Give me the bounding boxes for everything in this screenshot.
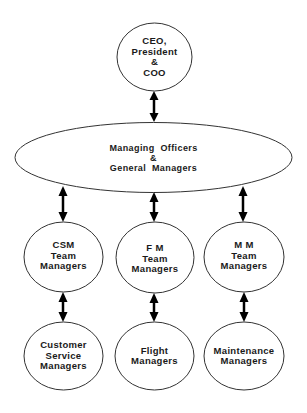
- ceo-label-line-3: &: [151, 57, 158, 68]
- ceo-node-label: CEO, President & COO: [117, 23, 192, 91]
- csm-team-node-label: CSM Team Managers: [24, 222, 103, 290]
- flight-label-line-2: Managers: [131, 356, 178, 367]
- flight-node-label: Flight Managers: [115, 322, 194, 390]
- arrow-mm-team-maintenance: [240, 292, 249, 322]
- fm-team-node-label: F M Team Managers: [116, 224, 194, 294]
- ceo-label-line-1: CEO,: [142, 36, 166, 47]
- arrow-fm-team-flight: [150, 293, 159, 322]
- fm-team-label-line-3: Managers: [132, 264, 179, 275]
- customer-service-label-line-3: Managers: [40, 361, 87, 372]
- customer-service-node-label: Customer Service Managers: [24, 322, 103, 390]
- csm-team-label-line-3: Managers: [40, 261, 87, 272]
- mm-team-label-line-3: Managers: [221, 261, 268, 272]
- arrow-csm-team-customer-service: [59, 292, 68, 322]
- managing-officers-node-label: Managing Officers & General Managers: [15, 123, 292, 192]
- arrow-ceo-managing: [150, 91, 159, 122]
- maintenance-node-label: Maintenance Managers: [204, 322, 284, 390]
- mm-team-node-label: M M Team Managers: [204, 222, 284, 290]
- managing-label-line-3: General Managers: [110, 163, 197, 173]
- ceo-label-line-4: COO: [143, 68, 166, 79]
- managing-label-line-2: &: [150, 153, 157, 163]
- maintenance-label-line-2: Managers: [221, 356, 268, 367]
- managing-label-line-1: Managing Officers: [109, 143, 197, 153]
- arrow-managing-fm-team: [150, 192, 159, 222]
